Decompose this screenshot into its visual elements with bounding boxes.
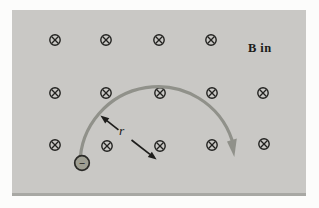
field-label: B in xyxy=(248,41,272,56)
radius-line-upper xyxy=(107,121,119,130)
radius-arrow xyxy=(100,116,156,160)
field-into-page-symbol xyxy=(50,140,60,150)
field-into-page-symbol xyxy=(207,88,217,98)
particle-path-arrowhead-icon xyxy=(227,139,237,157)
field-into-page-symbol xyxy=(259,139,269,149)
field-into-page-symbol xyxy=(207,140,217,150)
diagram-layer: − xyxy=(0,0,319,208)
radius-label: r xyxy=(119,123,124,139)
field-into-page-symbol xyxy=(206,35,216,45)
field-into-page-symbol xyxy=(102,141,112,151)
field-into-page-symbol xyxy=(50,35,60,45)
figure-canvas: − B in r xyxy=(0,0,319,208)
field-into-page-symbol xyxy=(50,88,60,98)
negative-charge-icon: − xyxy=(75,156,90,171)
particle-path-arc xyxy=(80,87,232,164)
field-into-page-symbol xyxy=(101,88,111,98)
field-into-page-symbol xyxy=(258,88,268,98)
field-into-page-symbol xyxy=(155,141,165,151)
radius-line-lower xyxy=(132,140,151,154)
charge-sign: − xyxy=(79,157,85,169)
field-symbols-layer xyxy=(50,35,269,151)
field-into-page-symbol xyxy=(155,88,165,98)
field-into-page-symbol xyxy=(101,35,111,45)
field-into-page-symbol xyxy=(154,35,164,45)
